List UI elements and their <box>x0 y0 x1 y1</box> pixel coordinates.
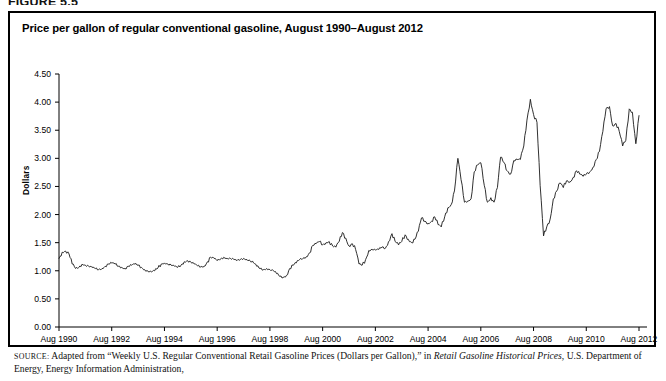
source-publication-title: Retail Gasoline Historical Prices <box>434 350 562 361</box>
y-axis-tick-label: 1.50 <box>34 238 51 248</box>
x-axis-tick-label: Aug 2002 <box>357 334 394 344</box>
x-axis-tick-label: Aug 2008 <box>515 334 552 344</box>
y-axis-tick-label: 1.00 <box>34 266 51 276</box>
x-axis-tick-label: Aug 1990 <box>41 334 78 344</box>
y-axis-tick-label: 4.50 <box>34 69 51 79</box>
x-axis-tick-label: Aug 1998 <box>252 334 289 344</box>
plot-area: Dollars 0.000.501.001.502.002.503.003.50… <box>10 13 658 349</box>
y-axis-label: Dollars <box>21 165 31 195</box>
figure-panel: Price per gallon of regular conventional… <box>8 11 656 347</box>
data-series-line <box>59 99 639 278</box>
y-axis-tick-label: 3.00 <box>34 153 51 163</box>
y-axis-tick-label: 2.00 <box>34 210 51 220</box>
x-axis-tick-label: Aug 1992 <box>93 334 130 344</box>
x-axis-tick-label: Aug 1994 <box>146 334 183 344</box>
figure-number: FIGURE 5.5 <box>8 0 78 5</box>
y-axis-tick-label: 4.00 <box>34 97 51 107</box>
source-text-part-1: Adapted from “Weekly U.S. Regular Conven… <box>49 350 433 361</box>
x-axis-tick-label: Aug 2012 <box>621 334 658 344</box>
source-label: SOURCE: <box>14 352 49 361</box>
y-axis-tick-label: 2.50 <box>34 181 51 191</box>
y-axis-tick-label: 0.00 <box>34 322 51 332</box>
x-axis-tick-label: Aug 2004 <box>410 334 447 344</box>
x-axis-tick-label: Aug 2010 <box>568 334 605 344</box>
x-axis-tick-label: Aug 2000 <box>304 334 341 344</box>
source-note: SOURCE: Adapted from “Weekly U.S. Regula… <box>14 350 654 376</box>
x-axis-tick-label: Aug 1996 <box>199 334 236 344</box>
y-axis-tick-label: 3.50 <box>34 125 51 135</box>
line-chart-svg: 0.000.501.001.502.002.503.003.504.004.50… <box>10 13 658 349</box>
figure-root: FIGURE 5.5 Price per gallon of regular c… <box>0 0 666 381</box>
x-axis-tick-label: Aug 2006 <box>462 334 499 344</box>
y-axis-tick-label: 0.50 <box>34 294 51 304</box>
